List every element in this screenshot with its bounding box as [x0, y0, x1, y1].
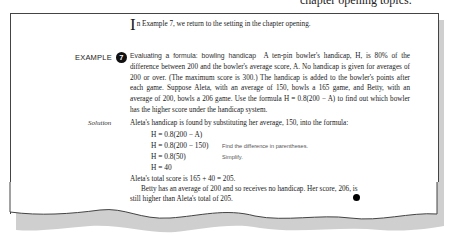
conclusion-line: Betty has an average of 200 and so recei…	[141, 185, 358, 193]
intro-text: n Example 7, we return to the setting in…	[137, 20, 311, 28]
end-of-example-marker	[353, 194, 360, 201]
equation-step: H = 40	[151, 163, 172, 172]
conclusion-line: still higher than Aleta's total of 205.	[130, 195, 233, 203]
equation-step: H = 0.8(200 − A)	[151, 130, 202, 139]
dropcap: I	[130, 15, 136, 34]
intro-paragraph: In Example 7, we return to the setting i…	[130, 19, 311, 31]
example-number-badge: 7	[116, 52, 127, 63]
problem-line: under the handicap system.	[189, 106, 267, 114]
step-note: Simplify.	[222, 154, 243, 160]
solution-intro: Aleta's handicap is found by substitutin…	[130, 119, 348, 127]
example-topic: Evaluating a formula: bowling handicap	[130, 52, 256, 59]
step-note: Find the difference in parentheses.	[222, 143, 308, 149]
page-header-fragment: chapter opening topics.	[300, 0, 412, 8]
example-label-text: EXAMPLE	[75, 53, 112, 62]
total-score-line: Aleta's total score is 165 + 40 = 205.	[130, 175, 235, 183]
problem-statement: Evaluating a formula: bowling handicap A…	[130, 51, 410, 116]
equation-step: H = 0.8(200 − 150)	[151, 141, 208, 150]
solution-label: Solution	[88, 119, 111, 127]
example-label: EXAMPLE 7	[75, 52, 127, 63]
equation-step: H = 0.8(50)	[151, 152, 186, 161]
problem-line: A ten-pin bowler's handicap, H, is 80% o…	[263, 52, 397, 60]
